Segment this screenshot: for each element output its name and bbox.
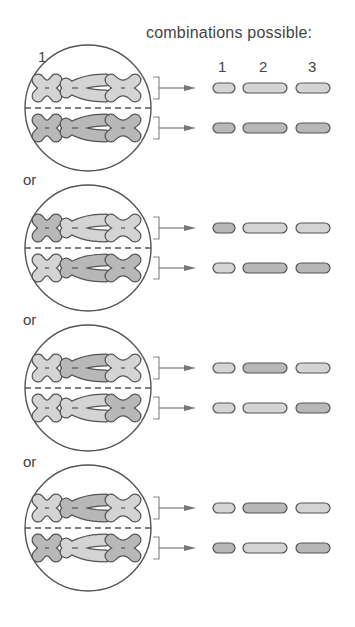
cell-scenario-2 bbox=[25, 185, 151, 311]
chromosome-1-bottom bbox=[38, 540, 56, 556]
gamete-chromosome-3 bbox=[296, 403, 330, 413]
gamete-chromosome-3 bbox=[296, 543, 330, 553]
cell-scenario-4 bbox=[25, 465, 151, 591]
gamete-chromosome-2 bbox=[243, 543, 287, 553]
arrow-bottom bbox=[153, 117, 196, 139]
gamete-chromosome-3 bbox=[296, 123, 330, 133]
arrow-bottom bbox=[153, 537, 196, 559]
meiosis-combinations-diagram bbox=[0, 0, 355, 627]
gamete-chromosome-2 bbox=[243, 503, 287, 513]
chromosome-3-bottom bbox=[111, 120, 135, 136]
gamete-chromosome-1 bbox=[213, 123, 235, 133]
gamete-chromosome-2 bbox=[243, 403, 287, 413]
cell-scenario-3 bbox=[25, 325, 151, 451]
chromosome-1-bottom bbox=[38, 400, 56, 416]
gamete-chromosome-3 bbox=[296, 363, 330, 373]
gamete-chromosome-3 bbox=[296, 503, 330, 513]
chromosome-3-top bbox=[111, 220, 135, 236]
arrow-top bbox=[153, 497, 196, 519]
gamete-chromosome-1 bbox=[213, 543, 235, 553]
gamete-chromosome-1 bbox=[213, 363, 235, 373]
gamete-chromosome-3 bbox=[296, 83, 330, 93]
chromosome-1-top bbox=[38, 360, 56, 376]
gamete-chromosome-1 bbox=[213, 403, 235, 413]
gamete-chromosome-1 bbox=[213, 503, 235, 513]
cell-scenario-1 bbox=[25, 45, 151, 171]
arrow-top bbox=[153, 217, 196, 239]
chromosome-1-top bbox=[38, 220, 56, 236]
chromosome-1-top bbox=[38, 500, 56, 516]
chromosome-1-bottom bbox=[38, 120, 56, 136]
gamete-chromosome-2 bbox=[243, 123, 287, 133]
chromosome-3-bottom bbox=[111, 540, 135, 556]
gamete-chromosome-1 bbox=[213, 83, 235, 93]
arrow-top bbox=[153, 77, 196, 99]
chromosome-3-top bbox=[111, 500, 135, 516]
chromosome-3-bottom bbox=[111, 260, 135, 276]
chromosome-3-bottom bbox=[111, 400, 135, 416]
gamete-chromosome-3 bbox=[296, 263, 330, 273]
gamete-chromosome-1 bbox=[213, 223, 235, 233]
arrow-bottom bbox=[153, 257, 196, 279]
gamete-chromosome-1 bbox=[213, 263, 235, 273]
arrow-bottom bbox=[153, 397, 196, 419]
gamete-chromosome-2 bbox=[243, 223, 287, 233]
gamete-chromosome-2 bbox=[243, 263, 287, 273]
chromosome-1-top bbox=[38, 80, 56, 96]
arrow-top bbox=[153, 357, 196, 379]
gamete-chromosome-2 bbox=[243, 83, 287, 93]
chromosome-3-top bbox=[111, 80, 135, 96]
chromosome-1-bottom bbox=[38, 260, 56, 276]
chromosome-3-top bbox=[111, 360, 135, 376]
gamete-chromosome-3 bbox=[296, 223, 330, 233]
gamete-chromosome-2 bbox=[243, 363, 287, 373]
